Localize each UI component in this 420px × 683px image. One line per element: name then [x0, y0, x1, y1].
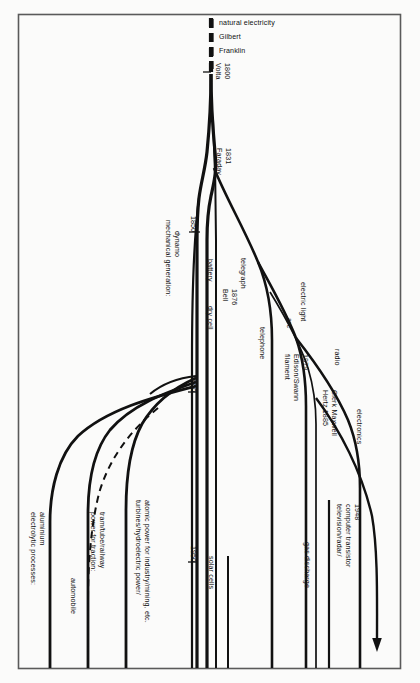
- label-faraday-year: 1831: [223, 148, 231, 164]
- label-edison-year: 1879: [300, 354, 308, 370]
- label-edison-swann: Edison/Swann: [291, 354, 299, 401]
- label-tick-1850: 1850: [188, 216, 196, 232]
- label-radio: radio: [332, 349, 340, 365]
- label-natural-electricity: natural electricity: [219, 20, 275, 28]
- label-franklin: Franklin: [219, 48, 245, 56]
- label-electric-light: electric light: [298, 282, 306, 321]
- label-volta: Volta: [213, 63, 221, 80]
- label-tick-1900: 1900: [188, 376, 196, 392]
- label-electrolytic-processes: electrolytic processes:: [28, 512, 36, 585]
- label-electronics: electronics: [354, 409, 362, 444]
- label-transistor-year: 1948: [352, 504, 360, 520]
- label-mechanical-generation: mechanical generation:: [163, 220, 171, 296]
- label-television-radar: television/radar/: [334, 504, 342, 557]
- dash-tick-3: [209, 47, 214, 56]
- label-tick-1950: 1950: [188, 546, 196, 562]
- label-bell-year: 1876: [229, 289, 237, 305]
- label-bell: Bell: [220, 289, 228, 301]
- label-gas-discharge: gas discharge: [302, 542, 310, 588]
- label-telephone: telephone: [257, 327, 265, 359]
- label-volta-year: 1800: [222, 63, 230, 79]
- label-atomic-power: atomic power for industry/mining, etc.: [142, 500, 150, 623]
- label-automobile: automobile: [68, 578, 76, 614]
- dash-tick-2: [209, 33, 214, 42]
- label-arc: arc: [284, 318, 292, 328]
- label-clerk-maxwell: Clerk Maxwell: [329, 390, 337, 436]
- label-power-for-traction: power for traction:: [88, 512, 96, 571]
- label-aluminium: aluminium: [37, 512, 45, 546]
- diagram-canvas: natural electricity Gilbert Franklin Vol…: [0, 0, 420, 683]
- label-hertz: Hertz 1885: [320, 390, 328, 426]
- dash-tick-1: [209, 19, 214, 28]
- label-tram-tube-railway: tram/tube/railway: [97, 512, 105, 568]
- label-turbines-hydroelectric: turbines/hydroelectric power/: [133, 500, 141, 595]
- label-battery: battery: [205, 259, 213, 282]
- label-telegraph: telegraph: [238, 258, 246, 289]
- label-filament: filament: [282, 354, 290, 380]
- label-dry-cell: dry cell: [205, 306, 213, 330]
- label-gilbert: Gilbert: [219, 34, 241, 42]
- label-solar-cells: solar cells: [206, 556, 214, 589]
- label-faraday: Faraday: [214, 148, 222, 175]
- label-computer-transistor: computer transistor: [343, 504, 351, 567]
- label-dynamo: dynamo: [172, 231, 180, 257]
